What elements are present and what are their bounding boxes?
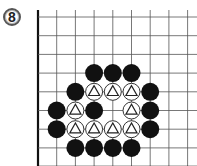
white-stone — [104, 121, 121, 138]
black-stone — [85, 139, 103, 157]
black-stone — [141, 83, 159, 101]
black-stone — [141, 120, 159, 138]
white-stone — [67, 102, 84, 119]
black-stone — [104, 139, 122, 157]
black-stone — [123, 139, 141, 157]
black-stone — [104, 64, 122, 82]
black-stone — [66, 139, 84, 157]
white-stone — [104, 83, 121, 100]
white-stone — [86, 121, 103, 138]
black-stone — [66, 83, 84, 101]
black-stone — [123, 64, 141, 82]
white-stone — [67, 121, 84, 138]
black-stone — [141, 102, 159, 120]
black-stone — [48, 102, 66, 120]
go-board — [0, 0, 197, 166]
white-stone — [86, 83, 103, 100]
black-stone — [85, 102, 103, 120]
black-stone — [85, 64, 103, 82]
white-stone — [123, 102, 140, 119]
white-stone — [123, 121, 140, 138]
white-stone — [123, 83, 140, 100]
black-stone — [48, 120, 66, 138]
